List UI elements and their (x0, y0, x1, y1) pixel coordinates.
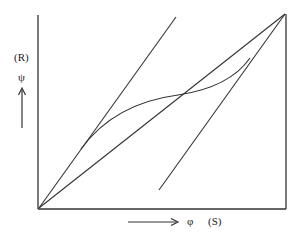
s-curve (81, 58, 250, 149)
y-axis-tag: (R) (14, 52, 29, 63)
x-axis-tag: (S) (208, 216, 221, 227)
y-axis-symbol: ψ (18, 72, 25, 83)
steep-line (39, 17, 176, 208)
diagonal-line (39, 14, 285, 208)
x-axis-symbol: φ (187, 216, 193, 227)
right-parallel-line (159, 14, 285, 190)
diagram-canvas (0, 0, 301, 238)
